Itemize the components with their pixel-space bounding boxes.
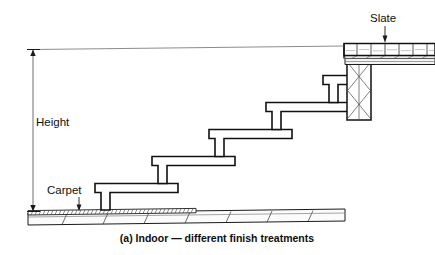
height-arrow-up xyxy=(30,50,35,57)
stair-step-3 xyxy=(209,130,292,157)
stair-step-4 xyxy=(266,103,349,130)
stair-step-1 xyxy=(95,184,178,211)
figure-container: Height Carpet Slate (a) Indoor — differe… xyxy=(0,0,435,255)
stair-flight xyxy=(95,76,352,211)
height-dimension xyxy=(27,50,40,212)
height-label: Height xyxy=(36,116,70,128)
landing-support-column xyxy=(347,62,371,120)
slate-arrowhead xyxy=(383,36,388,44)
floor-assembly xyxy=(28,208,345,225)
slate-landing-assembly xyxy=(344,44,435,121)
top-extension-line xyxy=(33,46,344,50)
stair-step-2 xyxy=(152,157,235,184)
carpet-label: Carpet xyxy=(47,184,82,196)
figure-caption: (a) Indoor — different finish treatments xyxy=(120,232,314,244)
carpet-callout xyxy=(77,197,82,211)
slate-label: Slate xyxy=(370,12,396,24)
slate-callout xyxy=(383,26,388,43)
stair-section-diagram: Height Carpet Slate (a) Indoor — differe… xyxy=(0,0,435,255)
